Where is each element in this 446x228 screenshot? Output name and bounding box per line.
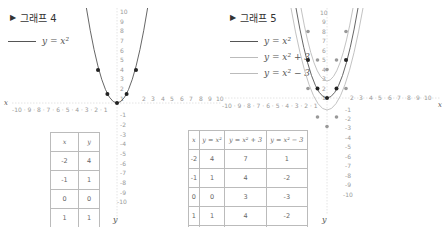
svg-text:10: 10 [120,8,128,15]
svg-text:2: 2 [322,85,326,92]
svg-text:-1: -1 [345,106,351,113]
svg-text:2: 2 [142,95,146,102]
svg-text:6: 6 [388,94,392,101]
svg-text:-5: -5 [120,150,126,157]
svg-text:-6: -6 [345,153,351,160]
svg-text:-7: -7 [120,169,126,176]
svg-text:-7: -7 [345,162,351,169]
svg-text:-8: -8 [120,179,126,186]
svg-text:10: 10 [320,9,328,16]
svg-text:6: 6 [120,47,124,54]
svg-text:9: 9 [120,18,124,25]
svg-text:y: y [321,215,327,224]
svg-text:6: 6 [180,95,184,102]
svg-text:3: 3 [359,94,363,101]
svg-text:7: 7 [397,94,401,101]
svg-text:3: 3 [151,95,155,102]
svg-text:7: 7 [322,37,326,44]
svg-text:5: 5 [322,56,326,63]
svg-text:7: 7 [120,37,124,44]
svg-text:-10: -10 [117,198,127,205]
table-row: 11 [51,209,100,228]
svg-text:-6: -6 [120,160,126,167]
svg-text:2: 2 [350,94,354,101]
svg-text:-3: -3 [345,124,351,131]
svg-text:4: 4 [369,94,373,101]
svg-text:-4: -4 [345,134,351,141]
svg-text:9: 9 [208,95,212,102]
table-row: 114-2 [189,207,308,226]
table-row: 003-3 [189,188,308,207]
svg-text:3: 3 [120,75,124,82]
table-header-row: x y = x² y = x² + 3 y = x² − 3 [189,131,308,150]
svg-text:9: 9 [416,94,420,101]
svg-text:-9: -9 [120,189,126,196]
svg-text:-1: -1 [120,111,126,118]
svg-text:-5: -5 [345,143,351,150]
svg-text:8: 8 [199,95,203,102]
svg-text:10: 10 [216,95,224,102]
svg-text:-3: -3 [120,131,126,138]
svg-text:6: 6 [322,47,326,54]
table-header-row: x y [51,133,100,152]
svg-text:4: 4 [120,66,124,73]
table-row: -114-2 [189,169,308,188]
svg-text:x: x [438,101,442,109]
svg-text:5: 5 [378,94,382,101]
svg-text:7: 7 [189,95,193,102]
svg-text:-2: -2 [120,121,126,128]
svg-text:-4: -4 [120,140,126,147]
svg-text:x: x [4,99,8,107]
svg-text:5: 5 [120,56,124,63]
svg-text:y: y [112,215,118,224]
table-row: 2471 [189,226,308,228]
svg-text:8: 8 [322,28,326,35]
svg-text:2: 2 [120,85,124,92]
svg-text:5: 5 [170,95,174,102]
svg-text:-10: -10 [343,191,353,198]
svg-text:8: 8 [120,27,124,34]
svg-text:10: 10 [424,94,432,101]
svg-text:-2: -2 [345,115,351,122]
svg-text:-9: -9 [345,181,351,188]
table-row: -2471 [189,150,308,169]
svg-text:-8: -8 [345,172,351,179]
svg-text:8: 8 [407,94,411,101]
svg-text:4: 4 [161,95,165,102]
table-row: 00 [51,190,100,209]
svg-text:9: 9 [322,18,326,25]
table-row: -11 [51,171,100,190]
graph5-table: x y = x² y = x² + 3 y = x² − 3 -2471 -11… [188,130,308,227]
svg-text:-10 · 9 · 8 · 7 · 6 · 5 · 4 ·: -10 · 9 · 8 · 7 · 6 · 5 · 4 · 3 · 2 · 1 [222,102,318,109]
graph4-table: x y -24 -11 00 11 24 [50,132,100,227]
table-row: -24 [51,152,100,171]
svg-text:-10 · 9 · 8 · 7 · 6 · 5 · 4 ·: -10 · 9 · 8 · 7 · 6 · 5 · 4 · 3 · 2 · 1 [12,106,108,113]
